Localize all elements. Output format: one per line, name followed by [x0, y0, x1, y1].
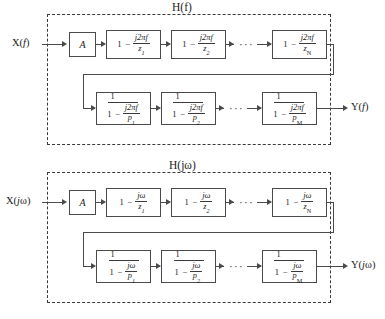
- pole-inner-frac-1-hf: j2πf p1: [123, 104, 140, 124]
- zero-op-n-hf: −: [289, 40, 299, 49]
- pole-outer-num-2-hf: 1: [173, 93, 203, 103]
- pole-num-m-hjw: jω: [291, 262, 303, 272]
- zero-stage-n-hjw: 1 − jω zN: [272, 188, 327, 217]
- zero-frac-n-hf: j2πf zN: [299, 34, 316, 54]
- pole-inner-frac-m-hjw: jω pM: [290, 262, 304, 282]
- arrowhead-input-hjw: [62, 199, 67, 205]
- pole-ellipsis-hjw: ···: [229, 261, 244, 271]
- pole-outer-num-m-hjw: 1: [274, 251, 304, 261]
- zero-num-1-hf: j2πf: [133, 34, 150, 44]
- pole-den-1-hjw: p1: [126, 272, 137, 282]
- zero-stage-1-hjw: 1 − jω z1: [106, 188, 161, 217]
- pole-inner-frac-2-hf: j2πf p2: [188, 104, 205, 124]
- block-diagram-figure: H(f) X(f) A 1 − j2πf z1 1 − j2πf z2: [0, 0, 385, 319]
- system-label-hjw: H(jω): [164, 159, 201, 172]
- output-label-hf: Y(f): [351, 101, 369, 113]
- wire-feed-left-hf: [83, 74, 334, 75]
- zero-ellipsis-hjw: ···: [239, 197, 254, 207]
- pole-num-m-hf: j2πf: [289, 104, 306, 114]
- zero-stage-n-hf: 1 − j2πf zN: [272, 30, 327, 59]
- wire-output-hjw: [317, 266, 346, 267]
- zero-expr-n-hf: 1 − j2πf zN: [283, 34, 316, 54]
- pole-frac-m-hjw: 1 1 − jω pM: [273, 251, 306, 283]
- input-label-hjw: X(jω): [6, 195, 30, 207]
- zero-op-1-hjw: −: [125, 198, 135, 207]
- zero-frac-1-hjw: jω z1: [135, 192, 147, 212]
- wire-input-hjw: [42, 202, 63, 203]
- pole-op-2-hjw: −: [180, 268, 190, 277]
- zero-den-n-hf: zN: [301, 44, 313, 54]
- pole-frac-m-hf: 1 1 − j2πf pM: [271, 93, 308, 125]
- pole-den-m-hf: pM: [290, 114, 304, 124]
- pole-outer-den-1-hf: 1 − j2πf p1: [105, 103, 142, 124]
- wire-feed-down-hf: [83, 74, 84, 108]
- pole-den-2-hjw: p2: [191, 272, 202, 282]
- zero-frac-2-hjw: jω z2: [200, 192, 212, 212]
- pole-op-1-hf: −: [113, 110, 123, 119]
- pole-stage-2-hjw: 1 1 − jω p2: [161, 250, 216, 283]
- pole-stage-1-hf: 1 1 − j2πf p1: [96, 92, 151, 125]
- zero-expr-2-hf: 1 − j2πf z2: [182, 34, 215, 54]
- pole-frac-1-hjw: 1 1 − jω p1: [108, 251, 140, 283]
- pole-inner-frac-1-hjw: jω p1: [125, 262, 137, 282]
- pole-stage-2-hf: 1 1 − j2πf p2: [161, 92, 216, 125]
- system-label-hf: H(f): [167, 1, 197, 14]
- arrowhead-output-hjw: [343, 263, 348, 269]
- zero-stage-1-hf: 1 − j2πf z1: [106, 30, 161, 59]
- pole-frac-2-hjw: 1 1 − jω p2: [173, 251, 205, 283]
- zero-num-1-hjw: jω: [135, 192, 147, 202]
- wire-output-hf: [317, 108, 346, 109]
- gain-label-hjw: A: [79, 198, 85, 208]
- pole-outer-den-m-hf: 1 − j2πf pM: [271, 103, 308, 124]
- pole-num-2-hjw: jω: [190, 262, 202, 272]
- pole-stage-1-hjw: 1 1 − jω p1: [96, 250, 151, 283]
- pole-frac-1-hf: 1 1 − j2πf p1: [105, 93, 142, 125]
- zero-stage-2-hf: 1 − j2πf z2: [171, 30, 226, 59]
- pole-outer-den-1-hjw: 1 − jω p1: [108, 261, 140, 282]
- pole-num-1-hf: j2πf: [123, 104, 140, 114]
- zero-num-n-hf: j2πf: [299, 34, 316, 44]
- zero-stage-2-hjw: 1 − jω z2: [171, 188, 226, 217]
- zero-op-1-hf: −: [123, 40, 133, 49]
- arrowhead-output-hf: [343, 105, 348, 111]
- pole-stage-m-hjw: 1 1 − jω pM: [262, 250, 317, 283]
- pole-outer-num-1-hf: 1: [108, 93, 138, 103]
- gain-label-hf: A: [79, 40, 85, 50]
- zero-den-2-hjw: z2: [201, 202, 211, 212]
- pole-num-2-hf: j2πf: [188, 104, 205, 114]
- pole-den-m-hjw: pM: [290, 272, 304, 282]
- wire-feed-left-hjw: [83, 232, 334, 233]
- gain-block-hf: A: [69, 32, 96, 57]
- arrowhead-dots-hjw: [229, 199, 234, 205]
- arrowhead-poledots-hf: [219, 105, 224, 111]
- pole-outer-num-1-hjw: 1: [109, 251, 139, 261]
- zero-op-2-hjw: −: [190, 198, 200, 207]
- zero-num-2-hjw: jω: [200, 192, 212, 202]
- zero-expr-n-hjw: 1 − jω zN: [286, 192, 314, 212]
- gain-block-hjw: A: [69, 190, 96, 215]
- zero-den-2-hf: z2: [201, 44, 211, 54]
- arrowhead-input-hf: [62, 41, 67, 47]
- pole-frac-2-hf: 1 1 − j2πf p2: [170, 93, 207, 125]
- zero-expr-2-hjw: 1 − jω z2: [185, 192, 213, 212]
- pole-outer-num-m-hf: 1: [274, 93, 304, 103]
- pole-outer-num-2-hjw: 1: [174, 251, 204, 261]
- zero-frac-2-hf: j2πf z2: [198, 34, 215, 54]
- zero-frac-n-hjw: jω zN: [301, 192, 313, 212]
- output-label-hjw: Y(jω): [351, 259, 375, 271]
- pole-outer-den-m-hjw: 1 − jω pM: [273, 261, 306, 282]
- pole-op-2-hf: −: [178, 110, 188, 119]
- wire-input-hf: [42, 44, 63, 45]
- pole-ellipsis-hf: ···: [229, 103, 244, 113]
- wire-feed-down-hjw: [83, 232, 84, 266]
- zero-op-n-hjw: −: [291, 198, 301, 207]
- zero-num-n-hjw: jω: [301, 192, 313, 202]
- pole-num-1-hjw: jω: [125, 262, 137, 272]
- zero-expr-1-hf: 1 − j2πf z1: [117, 34, 150, 54]
- zero-den-1-hf: z1: [136, 44, 146, 54]
- zero-num-2-hf: j2πf: [198, 34, 215, 44]
- zero-den-n-hjw: zN: [301, 202, 313, 212]
- pole-stage-m-hf: 1 1 − j2πf pM: [262, 92, 317, 125]
- pole-op-1-hjw: −: [115, 268, 125, 277]
- zero-expr-1-hjw: 1 − jω z1: [120, 192, 148, 212]
